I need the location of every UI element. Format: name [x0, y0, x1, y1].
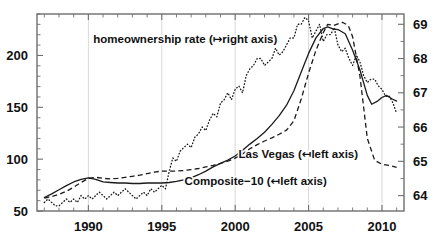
xtick-label-1995: 1995 — [147, 219, 176, 234]
homeownership-label: homeownership rate (↦right axis) — [93, 33, 277, 45]
ytick-label-left-50: 50 — [14, 204, 28, 219]
composite-label: Composite−10 (↤left axis) — [185, 175, 327, 187]
ytick-label-right-65: 65 — [413, 154, 427, 169]
ytick-label-right-68: 68 — [413, 51, 427, 66]
series-line-composite-10 — [44, 27, 396, 198]
ytick-label-left-100: 100 — [6, 152, 28, 167]
ytick-label-left-200: 200 — [6, 48, 28, 63]
xtick-label-1990: 1990 — [74, 219, 103, 234]
las-vegas-label: Las Vegas (↤left axis) — [239, 148, 359, 160]
ytick-label-right-64: 64 — [413, 188, 428, 203]
chart-canvas: 1990199520002005201050100150200646566676… — [0, 0, 440, 239]
ytick-label-right-66: 66 — [413, 120, 427, 135]
xtick-label-2000: 2000 — [221, 219, 250, 234]
ytick-label-right-67: 67 — [413, 85, 427, 100]
xtick-label-2010: 2010 — [368, 219, 397, 234]
ytick-label-right-69: 69 — [413, 17, 427, 32]
chart-figure: 1990199520002005201050100150200646566676… — [0, 0, 440, 239]
xtick-label-2005: 2005 — [294, 219, 323, 234]
series-annotations: homeownership rate (↦right axis)homeowne… — [93, 33, 358, 187]
series-line-las-vegas — [44, 22, 396, 198]
ytick-label-left-150: 150 — [6, 100, 28, 115]
